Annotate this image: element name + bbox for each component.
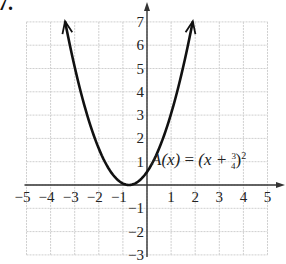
- x-tick-label: −2: [87, 189, 103, 205]
- curve-arrow-icons: [62, 21, 195, 34]
- x-tick-label: 5: [264, 189, 272, 205]
- y-tick-label: 2: [137, 130, 145, 146]
- x-tick-label: −3: [63, 189, 79, 205]
- x-tick-label: 3: [216, 189, 224, 205]
- y-tick-label: 6: [137, 37, 145, 53]
- y-tick-label: 1: [137, 154, 145, 170]
- y-tick-label: −1: [128, 200, 144, 216]
- x-tick-label: 1: [167, 189, 175, 205]
- y-tick-label: 5: [137, 61, 145, 77]
- y-tick-label: 3: [137, 107, 145, 123]
- parabola-chart: −5−4−3−2−112345−3−2−11234567 A(x) = (x +…: [0, 0, 285, 264]
- y-tick-label: −3: [128, 247, 144, 263]
- x-tick-label: −1: [111, 189, 127, 205]
- x-tick-label: 2: [191, 189, 199, 205]
- x-tick-label: −4: [39, 189, 55, 205]
- x-tick-label: −5: [15, 189, 31, 205]
- function-label: A(x) = (x + 34)2: [150, 150, 246, 171]
- axes: [25, 2, 286, 257]
- y-tick-label: −2: [128, 224, 144, 240]
- x-tick-label: 4: [240, 189, 248, 205]
- tick-labels: −5−4−3−2−112345−3−2−11234567: [15, 14, 272, 263]
- y-tick-label: 7: [137, 14, 145, 30]
- y-tick-label: 4: [137, 84, 145, 100]
